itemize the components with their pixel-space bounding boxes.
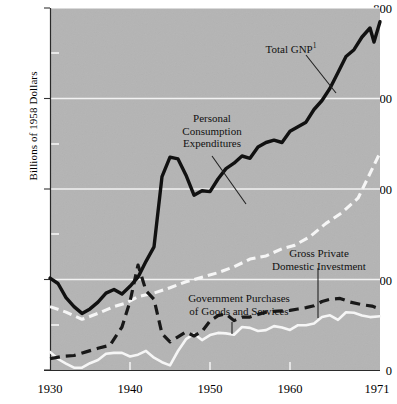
annotation-personal-consumption: Personal Consumption Expenditures: [162, 112, 262, 150]
annotation-gov-line1: Government Purchases: [168, 292, 310, 305]
annotation-total-gnp-text: Total GNP: [266, 43, 313, 55]
annotation-government-purchases: Government Purchases of Goods and Servic…: [168, 292, 310, 317]
annotation-pce-line1: Personal: [162, 112, 262, 125]
annotation-pce-line2: Consumption: [162, 125, 262, 138]
annotation-pce-line3: Expenditures: [162, 137, 262, 150]
annotation-total-gnp: Total GNP1: [246, 40, 336, 55]
annotation-gross-private-domestic-investment: Gross Private Domestic Investment: [256, 247, 382, 272]
annotation-gov-line2: of Goods and Services: [168, 305, 310, 318]
footnote-marker-1: 1: [313, 41, 317, 50]
annotation-gpdi-line2: Domestic Investment: [256, 260, 382, 273]
y-major-ticks: [44, 8, 50, 370]
annotation-gpdi-line1: Gross Private: [256, 247, 382, 260]
